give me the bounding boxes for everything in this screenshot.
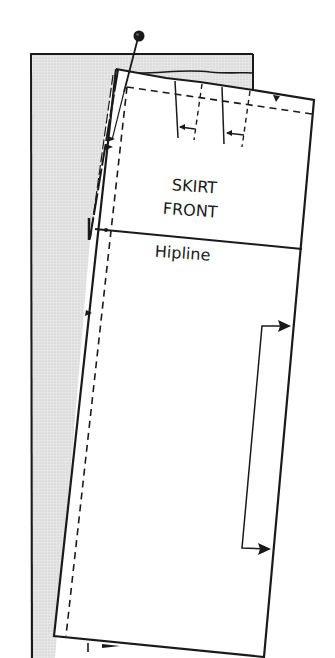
hipline-label: Hipline bbox=[154, 242, 211, 265]
piece-label-front: FRONT bbox=[162, 199, 218, 222]
piece-label-skirt: SKIRT bbox=[171, 175, 218, 197]
skirt-pattern-diagram: SKIRT FRONT Hipline bbox=[0, 0, 335, 658]
